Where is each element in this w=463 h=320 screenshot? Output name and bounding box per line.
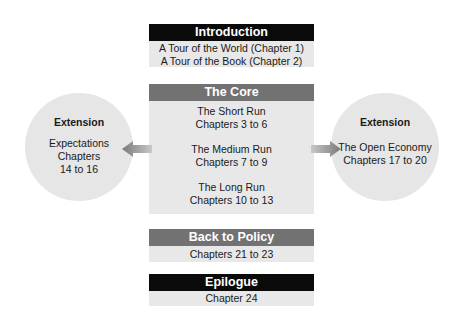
epilogue-chapters: Chapter 24 bbox=[149, 291, 314, 305]
epilogue-title: Epilogue bbox=[149, 274, 314, 291]
core-title: The Core bbox=[149, 84, 314, 101]
section-name: The Long Run bbox=[149, 181, 314, 194]
extension-left-line: 14 to 16 bbox=[25, 163, 133, 176]
extension-left-title: Extension bbox=[25, 116, 133, 129]
extension-left-line: Chapters bbox=[25, 150, 133, 163]
section-chapters: Chapters 7 to 9 bbox=[149, 156, 314, 169]
section-chapters: Chapters 3 to 6 bbox=[149, 118, 314, 131]
policy-title: Back to Policy bbox=[149, 229, 314, 246]
core-section-long-run: The Long Run Chapters 10 to 13 bbox=[149, 169, 314, 207]
section-name: The Medium Run bbox=[149, 143, 314, 156]
core-section-short-run: The Short Run Chapters 3 to 6 bbox=[149, 101, 314, 131]
introduction-title: Introduction bbox=[149, 24, 314, 41]
core-section-medium-run: The Medium Run Chapters 7 to 9 bbox=[149, 131, 314, 169]
extension-right-line: Chapters 17 to 20 bbox=[331, 154, 439, 167]
extension-right-line: The Open Economy bbox=[331, 141, 439, 154]
policy-box: Back to Policy Chapters 21 to 23 bbox=[149, 229, 314, 262]
section-name: The Short Run bbox=[149, 105, 314, 118]
core-box: The Core The Short Run Chapters 3 to 6 T… bbox=[149, 84, 314, 214]
arrow-right-icon bbox=[311, 141, 341, 157]
extension-left-circle: Extension Expectations Chapters 14 to 16 bbox=[25, 93, 133, 201]
introduction-box: Introduction A Tour of the World (Chapte… bbox=[149, 24, 314, 67]
introduction-line: A Tour of the World (Chapter 1) bbox=[149, 42, 314, 55]
policy-chapters: Chapters 21 to 23 bbox=[149, 246, 314, 261]
extension-right-title: Extension bbox=[331, 116, 439, 129]
arrow-left-icon bbox=[122, 141, 152, 157]
extension-right-circle: Extension The Open Economy Chapters 17 t… bbox=[331, 93, 439, 201]
extension-left-line: Expectations bbox=[25, 137, 133, 150]
introduction-line: A Tour of the Book (Chapter 2) bbox=[149, 55, 314, 68]
section-chapters: Chapters 10 to 13 bbox=[149, 194, 314, 207]
epilogue-box: Epilogue Chapter 24 bbox=[149, 274, 314, 306]
